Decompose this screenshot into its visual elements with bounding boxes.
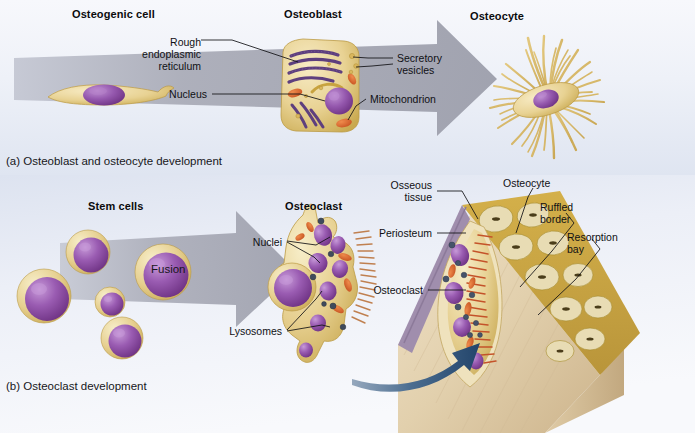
- stem-cell: [95, 287, 125, 317]
- label-fusion: Fusion: [151, 263, 186, 275]
- title-osteocyte: Osteocyte: [470, 10, 524, 22]
- stem-cell: [101, 317, 143, 359]
- label-osteocyte-bone: Osteocyte: [503, 177, 550, 189]
- label-secretory-vesicles: Secretory vesicles: [397, 52, 442, 76]
- caption-panel-b: (b) Osteoclast development: [6, 380, 147, 392]
- label-nucleus: Nucleus: [137, 88, 207, 100]
- bone-cell-development-figure: Osteogenic cell Osteoblast Osteocyte Rou…: [0, 0, 695, 433]
- panel-a-osteoblast-development: Osteogenic cell Osteoblast Osteocyte Rou…: [0, 0, 695, 175]
- label-osseous-tissue: Osseous tissue: [372, 179, 432, 203]
- stem-cell: [17, 269, 71, 323]
- stem-cell: [66, 230, 110, 274]
- label-rough-er: Rough endoplasmic reticulum: [96, 36, 201, 73]
- title-osteoblast: Osteoblast: [284, 8, 342, 20]
- label-periosteum: Periosteum: [348, 227, 432, 239]
- panel-a-graphics: [0, 0, 695, 175]
- title-stem-cells: Stem cells: [88, 200, 143, 212]
- label-osteoclast-bone: Osteoclast: [345, 284, 423, 296]
- panel-b-osteoclast-development: Stem cells Osteoclast Fusion Nuclei Lyso…: [0, 175, 695, 433]
- panel-b-graphics: [0, 175, 695, 433]
- label-resorption-bay: Resorption bay: [567, 231, 618, 255]
- label-nuclei: Nuclei: [214, 236, 282, 248]
- osteoblast-cell: [281, 39, 359, 132]
- title-osteoclast: Osteoclast: [285, 200, 342, 212]
- label-ruffled-border: Ruffled border: [540, 201, 573, 225]
- caption-panel-a: (a) Osteoblast and osteocyte development: [6, 155, 222, 167]
- title-osteogenic-cell: Osteogenic cell: [72, 8, 155, 20]
- label-lysosomes: Lysosomes: [192, 325, 282, 337]
- osteoblast-nucleus: [325, 88, 353, 115]
- label-mitochondrion: Mitochondrion: [370, 93, 436, 105]
